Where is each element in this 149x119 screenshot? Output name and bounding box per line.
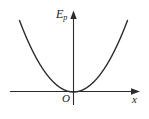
potential-energy-figure: Ep x O [0,0,149,119]
y-axis-label-subscript: p [63,13,67,22]
x-axis-label: x [132,94,137,105]
y-axis-label: Ep [56,8,67,22]
y-axis-arrowhead [70,11,76,20]
origin-label: O [62,93,70,104]
plot-canvas [0,0,149,119]
